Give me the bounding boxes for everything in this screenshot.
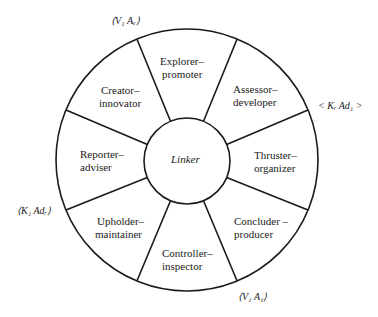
segment-label-line2: organizer (254, 162, 297, 175)
segment-label-line2: developer (233, 96, 278, 109)
annotation-right: < Kᵣ Ad₁ > (318, 100, 363, 111)
segment-label-line1: Upholder– (95, 215, 144, 228)
segment-reporter-adviser: Reporter– adviser (80, 148, 124, 174)
segment-creator-innovator: Creator– innovator (99, 84, 141, 110)
center-label-linker: Linker (171, 153, 200, 165)
segment-upholder-maintainer: Upholder– maintainer (95, 215, 144, 241)
segment-thruster-organizer: Thruster– organizer (254, 149, 297, 175)
segment-label-line1: Controller– (162, 247, 213, 260)
segment-label-line2: promoter (160, 68, 204, 81)
segment-assessor-developer: Assessor– developer (233, 83, 278, 109)
annotation-left: ⟨K₁ Adᵣ⟩ (17, 205, 51, 216)
segment-label-line2: innovator (99, 97, 141, 110)
segment-label-line1: Reporter– (80, 148, 124, 161)
annotation-top: ⟨V₁ Aₑ⟩ (111, 15, 140, 26)
segment-label-line1: Thruster– (254, 149, 297, 162)
segment-label-line2: maintainer (95, 228, 144, 241)
segment-label-line1: Explorer– (160, 55, 204, 68)
segment-label-line1: Assessor– (233, 83, 278, 96)
segment-label-line2: producer (234, 228, 288, 241)
segment-controller-inspector: Controller– inspector (162, 247, 213, 273)
segment-explorer-promoter: Explorer– promoter (160, 55, 204, 81)
annotation-bottom: ⟨V₁ A₁⟩ (238, 291, 268, 302)
segment-label-line2: adviser (80, 161, 124, 174)
segment-label-line1: Creator– (99, 84, 141, 97)
segment-label-line1: Concluder – (234, 215, 288, 228)
segment-concluder-producer: Concluder – producer (234, 215, 288, 241)
segment-label-line2: inspector (162, 260, 213, 273)
